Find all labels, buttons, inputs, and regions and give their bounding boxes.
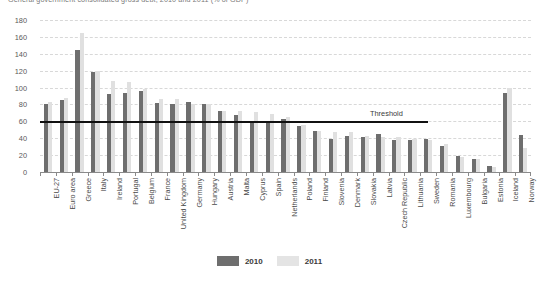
x-tick [389,172,405,176]
x-tick [230,172,246,176]
x-label-cell: Italy [88,178,104,250]
x-label-cell: Norway [515,178,531,250]
x-tick [167,172,183,176]
bar-2011 [333,132,337,172]
bar-2011 [238,111,242,172]
chart-legend: 2010 2011 [0,256,539,266]
x-axis-ticks [40,172,531,176]
x-tick [119,172,135,176]
x-tick [278,172,294,176]
bar-group [72,20,88,172]
bar-group [373,20,389,172]
x-label-cell: Netherlands [278,178,294,250]
x-label-cell: Cyprus [246,178,262,250]
x-tick [484,172,500,176]
bar-2011 [476,159,480,173]
x-label-cell: Euro area [56,178,72,250]
bar-2011 [301,125,305,172]
x-tick [325,172,341,176]
x-tick [420,172,436,176]
x-tick [452,172,468,176]
x-label-cell: Greece [72,178,88,250]
bar-group [309,20,325,172]
x-label-cell: Austria [214,178,230,250]
x-tick [214,172,230,176]
bar-groups [40,20,531,172]
bar-group [468,20,484,172]
x-label-cell: Bulgaria [468,178,484,250]
x-tick [151,172,167,176]
x-label-cell: France [151,178,167,250]
bar-2011 [507,88,511,172]
bar-2011 [444,144,448,172]
chart-container: General government consolidated gross de… [0,0,539,282]
bar-2011 [349,132,353,172]
x-label-cell: Portugal [119,178,135,250]
y-axis-tick-80: 80 [3,100,27,109]
x-label-cell: Lithuania [404,178,420,250]
bar-2011 [143,89,147,172]
bar-2011 [396,137,400,172]
y-axis-tick-160: 160 [3,33,27,42]
bar-2011 [80,33,84,172]
bar-2011 [286,117,290,172]
x-label-cell: Romania [436,178,452,250]
bar-group [151,20,167,172]
bar-2011 [365,136,369,172]
bar-group [135,20,151,172]
bar-group [357,20,373,172]
legend-swatch-2010 [217,256,239,266]
bar-group [119,20,135,172]
bar-group [515,20,531,172]
x-label-cell: Luxembourg [452,178,468,250]
x-tick [341,172,357,176]
y-axis-tick-180: 180 [3,16,27,25]
bar-2011 [428,140,432,172]
x-label-cell: Poland [294,178,310,250]
bar-group [341,20,357,172]
x-label-cell: Denmark [341,178,357,250]
bar-group [230,20,246,172]
bar-2011 [222,111,226,172]
x-tick [404,172,420,176]
x-tick [468,172,484,176]
bar-2011 [317,131,321,172]
x-label-cell: Hungary [198,178,214,250]
y-axis-tick-0: 0 [3,168,27,177]
x-tick [72,172,88,176]
x-tick [436,172,452,176]
bar-2011 [206,104,210,172]
bar-2011 [412,139,416,172]
threshold-label: Threshold [370,109,403,118]
x-tick [40,172,56,176]
x-tick [294,172,310,176]
y-axis-tick-20: 20 [3,151,27,160]
bar-2011 [523,148,527,172]
x-tick [135,172,151,176]
bar-group [294,20,310,172]
x-label-cell: Belgium [135,178,151,250]
legend-item-2011: 2011 [277,256,322,266]
x-label-cell: Sweden [420,178,436,250]
x-tick [499,172,515,176]
bar-group [40,20,56,172]
bar-2011 [175,99,179,172]
x-label-cell: Latvia [373,178,389,250]
bar-group [420,20,436,172]
x-axis-label: Norway [527,178,536,202]
x-tick [103,172,119,176]
x-label-cell: Estonia [484,178,500,250]
x-label-cell: Malta [230,178,246,250]
x-tick [373,172,389,176]
bar-group [436,20,452,172]
legend-label-2011: 2011 [305,257,322,266]
bar-group [198,20,214,172]
bar-group [214,20,230,172]
chart-title: General government consolidated gross de… [8,0,528,4]
bar-2011 [127,82,131,172]
bar-group [389,20,405,172]
bar-2011 [460,157,464,172]
legend-label-2010: 2010 [245,257,263,266]
bar-2011 [111,81,115,172]
x-tick [357,172,373,176]
